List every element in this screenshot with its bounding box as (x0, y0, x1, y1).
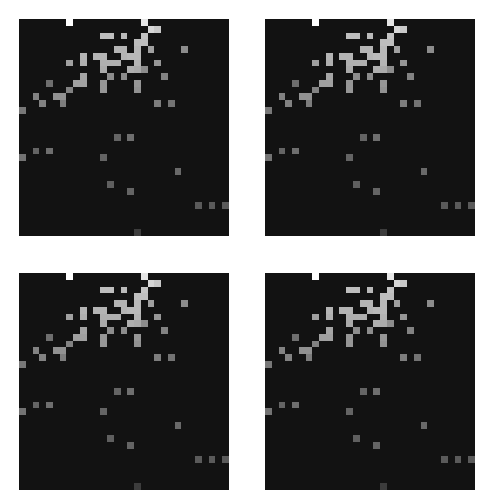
heatmap-cell (414, 100, 421, 107)
heatmap-cell (100, 60, 107, 67)
heatmap-cell (114, 314, 121, 321)
heatmap-cell (33, 347, 40, 354)
heatmap-cell (66, 314, 73, 321)
heatmap-cell (100, 408, 107, 415)
heatmap-cell (121, 53, 128, 60)
heatmap-cell (427, 46, 434, 53)
heatmap-cell (346, 154, 353, 161)
heatmap-cell (346, 341, 353, 348)
heatmap-cell (114, 388, 121, 395)
heatmap-cell (181, 46, 188, 53)
heatmap-cell (141, 293, 148, 300)
heatmap-cell (265, 107, 272, 114)
heatmap-cell (121, 327, 128, 334)
heatmap-cell (127, 320, 134, 327)
heatmap-cell (107, 73, 114, 80)
heatmap-cell (100, 341, 107, 348)
heatmap-cell (80, 314, 87, 321)
heatmap-cell (19, 361, 26, 368)
heatmap-cell (195, 202, 202, 209)
heatmap-cell (121, 46, 128, 53)
heatmap-cell (380, 307, 387, 314)
heatmap-cell (400, 26, 407, 33)
heatmap-cell (387, 287, 394, 294)
heatmap-cell (114, 46, 121, 53)
heatmap-cell (39, 354, 46, 361)
heatmap-cell (306, 347, 313, 354)
heatmap-cell (134, 307, 141, 314)
heatmap-cell (121, 307, 128, 314)
heatmap-cell (141, 66, 148, 73)
heatmap-cell (346, 53, 353, 60)
heatmap-cell (367, 327, 374, 334)
heatmap-cell (346, 80, 353, 87)
heatmap-cell (373, 188, 380, 195)
heatmap-cell (134, 334, 141, 341)
heatmap-cell (134, 300, 141, 307)
heatmap-cell (326, 53, 333, 60)
heatmap-cell (394, 280, 401, 287)
heatmap-cell (168, 354, 175, 361)
heatmap-cell (387, 33, 394, 40)
heatmap-cell (141, 320, 148, 327)
heatmap-cell (148, 26, 155, 33)
heatmap-cell (400, 354, 407, 361)
heatmap-cell (326, 334, 333, 341)
heatmap-cell (60, 354, 67, 361)
heatmap-cell (134, 320, 141, 327)
heatmap-cell (380, 483, 387, 490)
heatmap-cell (53, 93, 60, 100)
heatmap-cell (80, 307, 87, 314)
heatmap-cell (339, 53, 346, 60)
heatmap-cell (373, 53, 380, 60)
heatmap-cell (19, 154, 26, 161)
heatmap-cell (299, 93, 306, 100)
heatmap-cell (33, 402, 40, 409)
heatmap-cell (360, 46, 367, 53)
heatmap-cell (387, 320, 394, 327)
heatmap-cell (380, 39, 387, 46)
heatmap-cell (107, 181, 114, 188)
heatmap-cell (360, 134, 367, 141)
heatmap-cell (312, 19, 319, 26)
heatmap-cell (279, 148, 286, 155)
heatmap-cell (326, 73, 333, 80)
heatmap-cell (407, 73, 414, 80)
heatmap-cell (46, 402, 53, 409)
heatmap-cell (285, 354, 292, 361)
heatmap-cell (100, 154, 107, 161)
heatmap-cell (279, 347, 286, 354)
heatmap-cell (168, 100, 175, 107)
heatmap-cell (380, 80, 387, 87)
heatmap-cell (380, 229, 387, 236)
heatmap-cell (134, 293, 141, 300)
heatmap-cell (319, 80, 326, 87)
heatmap-cell (134, 483, 141, 490)
heatmap-cell (121, 73, 128, 80)
heatmap-cell (380, 53, 387, 60)
heatmap-cell (353, 327, 360, 334)
heatmap-cell (39, 100, 46, 107)
heatmap-cell (306, 354, 313, 361)
heatmap-cell (100, 314, 107, 321)
heatmap-cell (134, 53, 141, 60)
heatmap-cell (353, 287, 360, 294)
heatmap-cell (80, 60, 87, 67)
heatmap-cell (93, 307, 100, 314)
heatmap-cell (292, 80, 299, 87)
heatmap-cell (346, 334, 353, 341)
heatmap-cell (80, 53, 87, 60)
heatmap-cell (19, 408, 26, 415)
heatmap-cell (107, 287, 114, 294)
heatmap-cell (134, 46, 141, 53)
heatmap-cell (134, 87, 141, 94)
heatmap-cell (279, 402, 286, 409)
heatmap-cell (121, 33, 128, 40)
heatmap-cell (400, 314, 407, 321)
heatmap-cell (367, 73, 374, 80)
heatmap-cell (134, 229, 141, 236)
heatmap-cell (161, 327, 168, 334)
heatmap-cell (141, 19, 148, 26)
heatmap-cell (195, 456, 202, 463)
heatmap-cell (175, 422, 182, 429)
